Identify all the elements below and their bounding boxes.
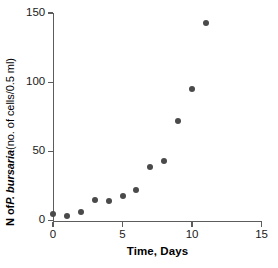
scatter-chart-figure: 050100150 051015 N of P. bursaria (no. o… [0, 0, 278, 268]
data-point [147, 164, 153, 170]
x-axis-tick-label: 0 [38, 228, 68, 240]
y-axis-line [53, 13, 54, 222]
data-point [92, 197, 98, 203]
x-axis-tick-label: 15 [247, 228, 277, 240]
data-point [203, 20, 209, 26]
data-point [106, 198, 112, 204]
data-point [50, 211, 56, 217]
plot-area [53, 13, 261, 221]
x-axis-tick-label: 5 [108, 228, 138, 240]
y-axis-title-species: P. bursaria [4, 150, 16, 205]
y-axis-tick [48, 82, 53, 83]
data-point [120, 193, 126, 199]
x-axis-tick-label: 10 [177, 228, 207, 240]
y-axis-tick [48, 12, 53, 13]
x-axis-tick [191, 222, 192, 227]
x-axis-tick [52, 222, 53, 227]
data-point [175, 118, 181, 124]
x-axis-title: Time, Days [53, 245, 262, 257]
y-axis-title: N of P. bursaria (no. of cells/0.5 ml) [2, 6, 18, 226]
y-axis-title-prefix: N of [4, 205, 16, 226]
x-axis-tick [122, 222, 123, 227]
x-axis-tick [261, 222, 262, 227]
y-axis-title-suffix: (no. of cells/0.5 ml) [4, 58, 16, 150]
y-axis-tick [48, 151, 53, 152]
x-axis-line [53, 221, 262, 222]
